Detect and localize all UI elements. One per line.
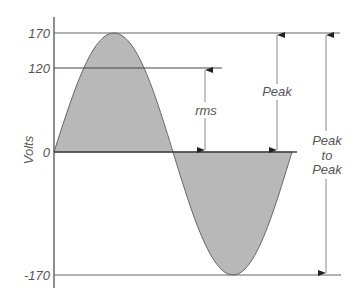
rms-label: rms bbox=[195, 103, 217, 118]
tick-label-0: 0 bbox=[43, 145, 51, 160]
tick-label-120: 120 bbox=[28, 61, 50, 76]
peak-to-peak-label-line1: Peak bbox=[312, 133, 343, 148]
peak-to-peak-label-line2: to bbox=[322, 148, 333, 163]
negative-half-wave bbox=[173, 152, 292, 275]
peak-label: Peak bbox=[262, 84, 293, 99]
sine-wave-diagram: 170 120 0 -170 Volts rms Peak Peak to Pe… bbox=[0, 0, 360, 303]
y-axis-label: Volts bbox=[21, 135, 36, 164]
peak-to-peak-label-line3: Peak bbox=[312, 162, 343, 177]
tick-label-170: 170 bbox=[28, 26, 50, 41]
positive-half-wave bbox=[54, 33, 173, 152]
tick-label-minus-170: -170 bbox=[24, 268, 51, 283]
